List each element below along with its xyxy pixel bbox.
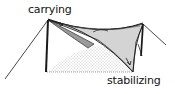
left-guy-line [5, 20, 48, 79]
right-guy-line [143, 24, 166, 45]
tensile-structure-diagram: carrying stabilizing [0, 0, 175, 94]
stabilizing-label: stabilizing [107, 75, 161, 86]
carrying-label: carrying [28, 4, 72, 15]
left-mast [46, 20, 48, 72]
